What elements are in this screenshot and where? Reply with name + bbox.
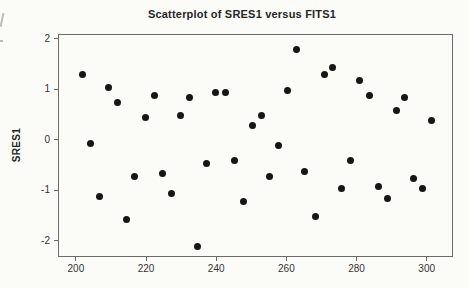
x-tick-mark (146, 257, 147, 261)
data-point (284, 87, 291, 94)
data-point (142, 114, 149, 121)
data-point (87, 140, 94, 147)
scan-artifact (0, 13, 4, 27)
data-point (312, 213, 319, 220)
data-point (329, 64, 336, 71)
x-tick-label: 260 (266, 264, 306, 274)
data-point (428, 117, 435, 124)
data-point (419, 185, 426, 192)
x-tick-mark (356, 257, 357, 261)
data-point (194, 243, 201, 250)
x-tick-label: 300 (407, 264, 447, 274)
x-tick-mark (286, 257, 287, 261)
y-tick-mark (54, 139, 58, 140)
data-point (375, 183, 382, 190)
x-tick-label: 220 (126, 264, 166, 274)
y-axis-title: SRES1 (11, 128, 22, 162)
data-point (177, 112, 184, 119)
x-tick-label: 240 (196, 264, 236, 274)
data-point (275, 142, 282, 149)
data-point (240, 198, 247, 205)
y-tick-label: 1 (20, 84, 50, 94)
data-point (96, 193, 103, 200)
data-point (212, 89, 219, 96)
y-tick-label: -1 (20, 185, 50, 195)
data-point (366, 92, 373, 99)
data-point (114, 99, 121, 106)
data-point (203, 160, 210, 167)
y-tick-mark (54, 38, 58, 39)
y-tick-mark (54, 240, 58, 241)
x-tick-label: 280 (337, 264, 377, 274)
chart-title: Scatterplot of SRES1 versus FITS1 (58, 8, 426, 20)
data-point (186, 94, 193, 101)
data-point (384, 195, 391, 202)
y-tick-label: 0 (20, 135, 50, 145)
data-point (266, 173, 273, 180)
data-point (151, 92, 158, 99)
data-point (159, 170, 166, 177)
data-point (347, 157, 354, 164)
y-tick-mark (54, 190, 58, 191)
data-point (222, 89, 229, 96)
data-point (168, 190, 175, 197)
x-tick-mark (426, 257, 427, 261)
data-point (131, 173, 138, 180)
y-tick-label: -2 (20, 236, 50, 246)
data-point (393, 107, 400, 114)
x-tick-label: 200 (56, 264, 96, 274)
x-tick-mark (75, 257, 76, 261)
data-point (231, 157, 238, 164)
scan-artifact (0, 40, 3, 42)
data-point (105, 84, 112, 91)
plot-area (58, 34, 453, 257)
data-point (401, 94, 408, 101)
data-point (321, 71, 328, 78)
y-tick-mark (54, 89, 58, 90)
data-point (410, 175, 417, 182)
data-point (356, 77, 363, 84)
data-point (249, 122, 256, 129)
data-point (301, 168, 308, 175)
data-point (258, 112, 265, 119)
data-point (79, 71, 86, 78)
scatterplot: Scatterplot of SRES1 versus FITS1 SRES1 … (0, 0, 469, 288)
data-point (293, 46, 300, 53)
data-point (123, 216, 130, 223)
data-point (338, 185, 345, 192)
y-tick-label: 2 (20, 34, 50, 44)
x-tick-mark (216, 257, 217, 261)
